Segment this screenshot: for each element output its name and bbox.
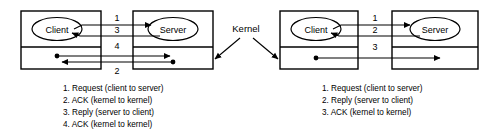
- rpc-diagram-svg: Client Server 1 3 4 2: [0, 0, 492, 139]
- right-server-label: Server: [422, 25, 449, 35]
- left-client-box: Client: [21, 11, 101, 69]
- right-legend-item-3: 3. ACK (kernel to kernel): [322, 108, 411, 117]
- right-arrow-3-number: 3: [372, 42, 377, 52]
- left-arrow-1-number: 1: [114, 13, 119, 23]
- left-server-label: Server: [160, 25, 187, 35]
- right-client-label: Client: [304, 25, 328, 35]
- left-legend-item-1: 1. Request (client to server): [63, 84, 164, 93]
- left-legend-item-3: 3. Reply (server to client): [63, 108, 154, 117]
- right-arrow-3-origin-dot: [314, 56, 319, 61]
- right-legend: 1. Request (client to server) 2. Reply (…: [322, 84, 423, 117]
- right-server-box: Server: [392, 11, 478, 69]
- left-client-label: Client: [45, 25, 69, 35]
- kernel-label: Kernel: [232, 23, 259, 34]
- right-legend-item-2: 2. Reply (server to client): [322, 96, 413, 105]
- left-arrow-3-number: 3: [114, 25, 119, 35]
- right-arrow-1-number: 1: [372, 13, 377, 23]
- right-client-box: Client: [280, 11, 358, 69]
- right-legend-item-1: 1. Request (client to server): [322, 84, 423, 93]
- left-legend-item-2: 2. ACK (kernel to kernel): [63, 96, 152, 105]
- left-arrow-4-origin-dot: [55, 54, 60, 59]
- left-legend-item-4: 4. ACK (kernel to kernel): [63, 120, 152, 129]
- left-arrow-4-number: 4: [114, 41, 119, 51]
- left-arrow-2-number: 2: [114, 66, 119, 76]
- diagram-canvas: Client Server 1 3 4 2: [0, 0, 492, 139]
- left-arrow-2-origin-dot: [171, 60, 176, 65]
- right-arrow-2-number: 2: [372, 25, 377, 35]
